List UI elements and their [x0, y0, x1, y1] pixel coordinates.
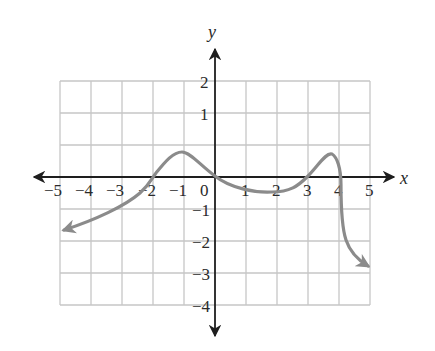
x-tick-label: −1 — [169, 181, 187, 200]
x-tick-label: 5 — [365, 181, 374, 200]
y-tick-label: −3 — [192, 265, 210, 284]
y-tick-label: −1 — [192, 201, 210, 220]
x-axis-label: x — [399, 168, 408, 188]
x-tick-label: −5 — [44, 181, 62, 200]
function-graph: x y −5 −4 −3 −2 −1 0 1 2 3 4 5 2 1 −1 −2… — [0, 0, 435, 351]
y-tick-label: 1 — [200, 105, 209, 124]
x-tick-label: 0 — [200, 181, 209, 200]
x-tick-label: −3 — [106, 181, 124, 200]
y-tick-label: −2 — [192, 233, 210, 252]
y-axis-label: y — [206, 22, 216, 42]
y-tick-label: −4 — [192, 297, 211, 316]
x-tick-labels: −5 −4 −3 −2 −1 0 1 2 3 4 5 — [44, 181, 374, 200]
x-tick-label: −4 — [75, 181, 94, 200]
y-tick-label: 2 — [200, 73, 209, 92]
x-tick-label: 3 — [303, 181, 312, 200]
